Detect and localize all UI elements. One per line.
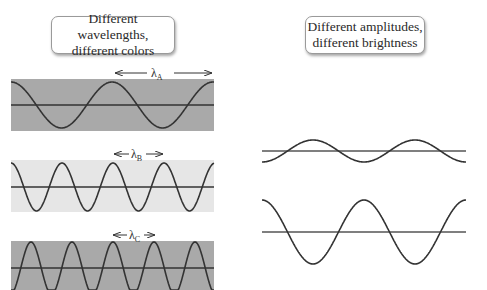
small-amplitude-wave xyxy=(262,140,466,162)
wavelength-b-label: λB xyxy=(131,147,142,163)
wave-c-panel: λC xyxy=(11,228,214,290)
wave-diagram: λA λB λC xyxy=(0,0,487,290)
wavelength-a-label: λA xyxy=(151,66,163,82)
large-amplitude-wave xyxy=(262,200,466,264)
wave-a-panel: λA xyxy=(11,66,214,131)
wave-c-band xyxy=(11,241,214,290)
wave-b-panel: λB xyxy=(11,147,214,212)
wavelength-c-label: λC xyxy=(129,228,140,244)
